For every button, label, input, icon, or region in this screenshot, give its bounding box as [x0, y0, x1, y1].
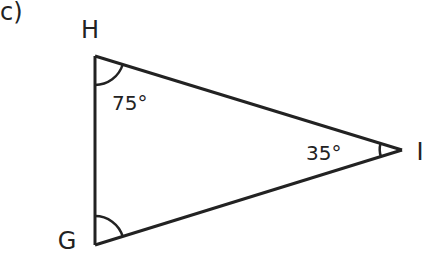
angle-label-I: 35° [306, 141, 341, 165]
angle-label-H: 75° [112, 91, 147, 115]
vertex-label-H: H [81, 16, 99, 44]
triangle-diagram: c) H G I 75° 35° [0, 0, 427, 257]
angle-arc-I [380, 144, 381, 157]
triangle-GHI [95, 56, 402, 245]
side-GI [95, 150, 402, 245]
vertex-label-G: G [58, 227, 77, 255]
angle-arc-G [95, 216, 123, 236]
angle-arc-H [95, 65, 123, 86]
question-label: c) [0, 0, 23, 26]
vertex-label-I: I [416, 138, 423, 166]
diagram-canvas: c) H G I 75° 35° [0, 0, 427, 257]
